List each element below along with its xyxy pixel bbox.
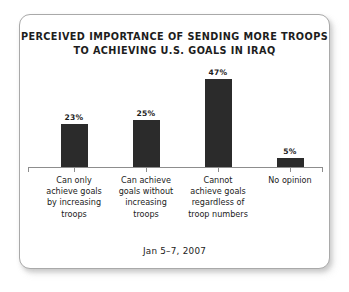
category-label-line: No opinion (254, 175, 326, 186)
bar-0 (61, 124, 88, 167)
category-label-line: increasing (110, 197, 182, 208)
bar-1 (133, 120, 160, 167)
bar-value-label-3: 5% (256, 148, 324, 156)
bar-value-label-0: 23% (40, 114, 108, 122)
bar-group-2: 47% (184, 69, 252, 167)
axis-tick (322, 168, 323, 172)
bar-group-0: 23% (40, 114, 108, 167)
axis-tick (28, 168, 29, 172)
axis-tick (146, 168, 147, 172)
chart-category-labels: Can onlyachieve goalsby increasingtroops… (28, 175, 323, 233)
category-label-line: Can only (38, 175, 110, 186)
category-label-line: goals without (110, 186, 182, 197)
category-label-2: Cannotachieve goalsregardless oftroop nu… (182, 175, 254, 220)
axis-tick (218, 168, 219, 172)
category-label-line: by increasing (38, 197, 110, 208)
axis-tick (74, 168, 75, 172)
category-label-line: achieve goals (38, 186, 110, 197)
category-label-line: regardless of (182, 197, 254, 208)
bar-value-label-1: 25% (112, 110, 180, 118)
axis-tick (290, 168, 291, 172)
category-label-3: No opinion (254, 175, 326, 186)
category-label-line: troops (110, 209, 182, 220)
category-label-0: Can onlyachieve goalsby increasingtroops (38, 175, 110, 220)
axis-baseline (28, 167, 323, 168)
chart-card: PERCEIVED IMPORTANCE OF SENDING MORE TRO… (19, 14, 330, 269)
bar-value-label-2: 47% (184, 69, 252, 77)
chart-x-axis (28, 167, 323, 172)
category-label-line: Cannot (182, 175, 254, 186)
category-label-line: troops (38, 209, 110, 220)
category-label-line: achieve goals (182, 186, 254, 197)
category-label-line: troop numbers (182, 209, 254, 220)
chart-title: PERCEIVED IMPORTANCE OF SENDING MORE TRO… (20, 30, 329, 57)
category-label-line: Can achieve (110, 175, 182, 186)
bar-3 (277, 158, 304, 167)
chart-plot-area: 23% 25% 47% 5% (28, 73, 323, 167)
bar-group-1: 25% (112, 110, 180, 167)
chart-title-line-2: TO ACHIEVING U.S. GOALS IN IRAQ (20, 44, 329, 58)
bar-group-3: 5% (256, 148, 324, 167)
bar-2 (205, 79, 232, 167)
category-label-1: Can achievegoals withoutincreasingtroops (110, 175, 182, 220)
chart-title-line-1: PERCEIVED IMPORTANCE OF SENDING MORE TRO… (20, 30, 329, 44)
chart-date-footer: Jan 5–7, 2007 (20, 246, 329, 256)
